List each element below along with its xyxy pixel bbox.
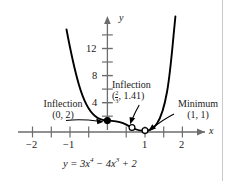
y-tick-label-8: 8 bbox=[92, 71, 97, 82]
fraction-two-thirds: 23 bbox=[115, 90, 118, 104]
x-axis-label: x bbox=[209, 126, 213, 136]
x-tick-label--1: −1 bbox=[63, 140, 74, 151]
x-axis bbox=[18, 127, 205, 138]
equation-rhs: + 2 bbox=[119, 158, 137, 169]
fraction-numerator: 2 bbox=[115, 90, 118, 96]
annotation-inflection-left: Inflection (0, 2) bbox=[28, 98, 98, 120]
equation-caption: y = 3x4 − 4x3 + 2 bbox=[63, 157, 137, 169]
equation-lhs: y = 3x bbox=[63, 158, 90, 169]
point-inflection-left bbox=[104, 118, 110, 124]
page-border-rule bbox=[222, 0, 223, 181]
annotation-minimum-coords: (1, 1) bbox=[167, 109, 229, 120]
y-axis bbox=[102, 16, 113, 130]
annotation-inflection-mid-title: Inflection bbox=[112, 79, 176, 90]
y-tick-label-12: 12 bbox=[86, 44, 97, 55]
x-tick-label--2: −2 bbox=[26, 140, 37, 151]
equation-mid: − 4x bbox=[93, 158, 115, 169]
point-inflection-mid bbox=[129, 125, 135, 131]
leader-arrow-inflection-mid bbox=[130, 105, 140, 124]
figure-container: x y −2 −1 1 2 4 8 12 Inflection (0, 2) I… bbox=[0, 0, 234, 181]
annotation-inflection-mid-value: , 1.41) bbox=[118, 90, 144, 101]
x-tick-label-2: 2 bbox=[179, 140, 184, 151]
fraction-denominator: 3 bbox=[115, 97, 118, 104]
annotation-inflection-left-coords: (0, 2) bbox=[28, 109, 98, 120]
point-minimum bbox=[142, 128, 148, 134]
y-axis-label: y bbox=[119, 13, 123, 23]
annotation-minimum: Minimum (1, 1) bbox=[167, 98, 229, 120]
annotation-inflection-left-title: Inflection bbox=[28, 98, 98, 109]
x-tick-label-1: 1 bbox=[142, 140, 147, 151]
annotation-minimum-title: Minimum bbox=[167, 98, 229, 109]
